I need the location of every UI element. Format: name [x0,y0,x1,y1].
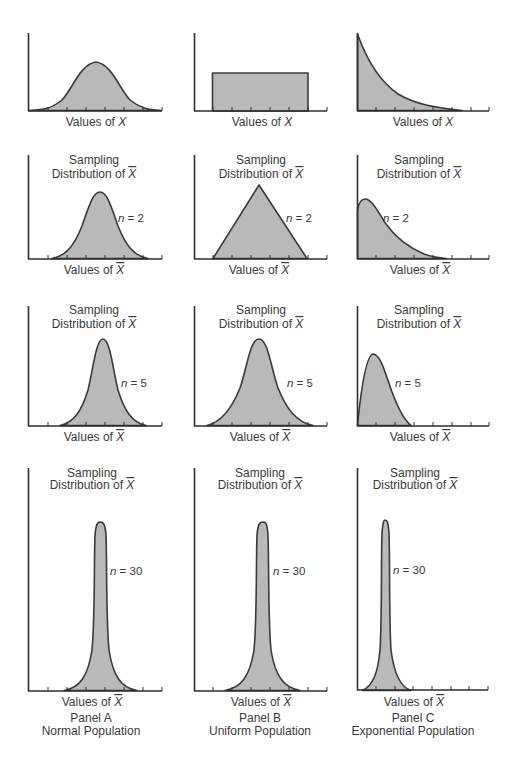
sample-size-label: n = 5 [121,377,147,389]
sampling-uniform-n2-plot: Sampling Distribution of X n = 2 Values … [194,153,327,277]
x-axis-label: Values of X [232,115,293,129]
x-axis-label: Values of X [62,695,123,709]
sampling-exponential-n2-plot: Sampling Distribution of X n = 2 Values … [357,153,489,277]
x-axis-label: Values of X [64,263,125,277]
sample-size-label: n = 2 [286,212,312,224]
row-n2: Sampling Distribution of X n = 2 Values … [28,153,489,277]
sampling-normal-n5-plot: Sampling Distribution of X n = 5 Values … [28,303,162,444]
plot-title-line1: Sampling [69,153,119,167]
sampling-curve [358,199,447,259]
row-population: Values of X Values of X [28,33,489,129]
population-label: Exponential Population [352,724,475,738]
x-axis-label: Values of X [390,430,451,444]
row-n30: Sampling Distribution of X n = 30 Values… [28,466,488,738]
sample-size-label: n = 2 [383,212,409,224]
sampling-distribution-figure: Values of X Values of X [0,0,516,761]
sample-size-label: n = 30 [273,565,305,577]
sampling-exponential-n30-plot: Sampling Distribution of X n = 30 Values… [352,466,488,738]
plot-title-line2: Distribution of X [373,478,459,492]
sample-size-label: n = 2 [118,212,144,224]
plot-title-line2: Distribution of X [218,478,304,492]
plot-title-line2: Distribution of X [52,317,138,331]
sampling-curve [225,522,300,691]
sampling-normal-n2-plot: Sampling Distribution of X n = 2 Values … [28,153,162,277]
panel-label: Panel C [392,711,435,725]
sampling-curve [64,522,137,691]
x-axis-label: Values of X [66,115,127,129]
plot-title-line2: Distribution of X [219,317,305,331]
plot-title-line2: Distribution of X [52,167,138,181]
population-normal-plot: Values of X [28,33,162,129]
sampling-curve [362,520,411,691]
plot-title-line1: Sampling [69,303,119,317]
sampling-curve [358,354,412,426]
plot-title-line1: Sampling [236,303,286,317]
sampling-curve [52,192,148,259]
plot-title-line1: Sampling [236,153,286,167]
sample-size-label: n = 30 [110,565,142,577]
sampling-exponential-n5-plot: Sampling Distribution of X n = 5 Values … [357,303,489,444]
population-uniform-plot: Values of X [194,33,327,129]
plot-title-line2: Distribution of X [377,167,463,181]
sample-size-label: n = 5 [287,377,313,389]
sample-size-label: n = 5 [395,377,421,389]
population-label: Normal Population [42,724,141,738]
x-axis-label: Values of X [393,115,454,129]
plot-title-line1: Sampling [394,153,444,167]
sampling-uniform-n5-plot: Sampling Distribution of X n = 5 Values … [194,303,327,444]
x-axis-label: Values of X [230,430,291,444]
x-axis-label: Values of X [384,695,445,709]
exponential-population-curve [358,34,463,111]
plot-title-line2: Distribution of X [219,167,305,181]
sampling-uniform-n30-plot: Sampling Distribution of X n = 30 Values… [194,466,327,738]
panel-label: Panel B [239,711,281,725]
panel-label: Panel A [70,711,111,725]
row-n5: Sampling Distribution of X n = 5 Values … [28,303,489,444]
sampling-normal-n30-plot: Sampling Distribution of X n = 30 Values… [28,466,162,738]
x-axis-label: Values of X [229,263,290,277]
population-exponential-plot: Values of X [357,33,489,129]
plot-title-line2: Distribution of X [377,317,463,331]
plot-title-line1: Sampling [394,303,444,317]
x-axis-label: Values of X [64,430,125,444]
sample-size-label: n = 30 [393,564,425,576]
population-label: Uniform Population [209,724,311,738]
normal-population-curve [29,62,161,111]
x-axis-label: Values of X [390,263,451,277]
plot-title-line2: Distribution of X [50,478,136,492]
uniform-population-rect [213,73,309,111]
x-axis-label: Values of X [231,695,292,709]
